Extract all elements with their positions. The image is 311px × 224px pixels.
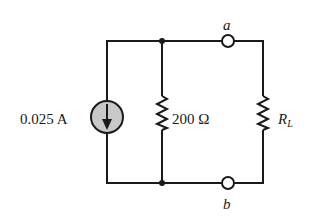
circuit-diagram: 0.025 A 200 Ω RL a b (0, 0, 311, 224)
source-value-label: 0.025 A (20, 111, 68, 127)
terminal-b-label: b (223, 196, 231, 212)
terminal-b (222, 177, 234, 189)
junction-dot (159, 38, 165, 44)
junction-dot (159, 180, 165, 186)
terminal-a (222, 35, 234, 47)
resistor-value-label: 200 Ω (172, 111, 209, 127)
terminal-a-label: a (223, 17, 231, 33)
load-label: RL (277, 111, 293, 129)
current-source (91, 101, 123, 133)
resistor-200 (157, 96, 167, 130)
resistor-load (258, 96, 268, 130)
